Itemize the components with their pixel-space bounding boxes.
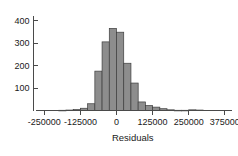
x-tick-label: 0 bbox=[114, 117, 119, 127]
histogram-bar bbox=[88, 104, 95, 111]
x-tick-label: -125000 bbox=[64, 117, 97, 127]
y-tick-label: 400 bbox=[14, 16, 29, 26]
histogram-bar bbox=[138, 102, 145, 111]
histogram-bar bbox=[117, 32, 124, 110]
histogram-bar bbox=[95, 71, 102, 110]
x-tick-label: -250000 bbox=[28, 117, 61, 127]
histogram-bar bbox=[145, 106, 152, 111]
histogram-chart: 100200300400 -250000-1250000125000250000… bbox=[0, 0, 238, 156]
x-axis-title: Residuals bbox=[112, 132, 154, 143]
histogram-plot-area: 100200300400 -250000-1250000125000250000… bbox=[0, 0, 238, 156]
y-tick-label: 200 bbox=[14, 61, 29, 71]
y-axis-ticks: 100200300400 bbox=[14, 16, 37, 94]
x-axis-ticks: -250000-1250000125000250000375000 bbox=[28, 111, 238, 127]
histogram-bar bbox=[131, 83, 138, 110]
histogram-bar bbox=[102, 42, 109, 111]
x-tick-label: 125000 bbox=[138, 117, 168, 127]
x-tick-label: 250000 bbox=[174, 117, 204, 127]
bars-group bbox=[59, 28, 203, 111]
y-tick-label: 100 bbox=[14, 83, 29, 93]
histogram-bar bbox=[124, 63, 131, 110]
x-tick-label: 375000 bbox=[210, 117, 238, 127]
y-tick-label: 300 bbox=[14, 38, 29, 48]
histogram-bar bbox=[109, 28, 116, 110]
